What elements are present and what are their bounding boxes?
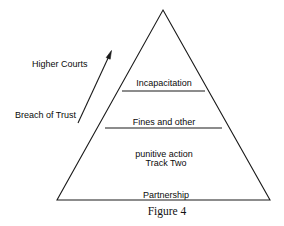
escalation-arrow-head — [106, 51, 111, 60]
figure-diagram: Incapacitation Fines and other punitive … — [0, 0, 284, 226]
pyramid-tier-line: Fines and other — [133, 117, 196, 128]
pyramid-tier-line: Track Two — [143, 158, 189, 169]
annotation-label-breach-of-trust: Breach of Trust — [15, 110, 76, 121]
figure-caption: Figure 4 — [148, 205, 187, 218]
pyramid-tier-line: Partnership — [143, 190, 189, 201]
pyramid-tier-line: Incapacitation — [136, 78, 192, 88]
annotation-label-higher-courts: Higher Courts — [32, 59, 88, 70]
pyramid-tier-label-incapacitation: Incapacitation — [136, 78, 192, 89]
